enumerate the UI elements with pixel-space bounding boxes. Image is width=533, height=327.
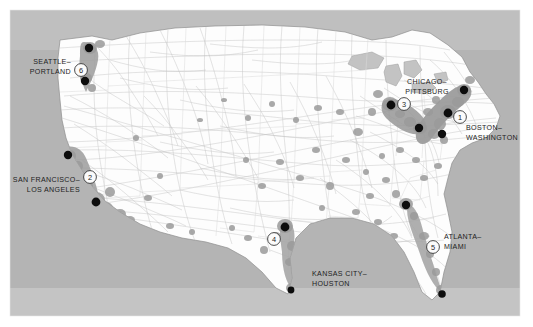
map-frame-content: 1 BOSTON– WASHINGTON 2 SAN FRANCISCO– LO… [10,10,520,316]
corridor-label-2-line1: SAN FRANCISCO– [13,176,80,184]
city-dot-washington [438,130,446,138]
megalopolis-corridor-map: 1 BOSTON– WASHINGTON 2 SAN FRANCISCO– LO… [0,0,533,327]
city-dot-new-york [444,109,453,118]
corridor-label-1-line2: WASHINGTON [466,134,518,142]
corridor-badge-1-number: 1 [458,113,462,122]
city-dot-boston [460,86,468,94]
city-dot-kansas-city [281,223,290,232]
city-dot-houston [288,287,295,294]
city-dot-miami [438,290,446,298]
corridor-badge-4-number: 4 [272,235,276,244]
corridor-label-6-line2: PORTLAND [30,68,71,76]
city-dot-pittsburg [415,124,423,132]
corridor-label-4-line2: HOUSTON [312,280,350,288]
corridor-badge-3-number: 3 [402,100,406,109]
corridor-label-4-line1: KANSAS CITY– [312,270,367,278]
corridor-label-5-line1: ATLANTA– [444,233,482,241]
corridor-badge-5-number: 5 [431,243,435,252]
corridor-label-3-line1: CHICAGO– [407,78,447,86]
map-canvas: 1 BOSTON– WASHINGTON 2 SAN FRANCISCO– LO… [0,0,533,327]
corridor-badge-2-number: 2 [88,173,92,182]
city-dot-atlanta [402,201,410,209]
corridor-label-1-line1: BOSTON– [466,124,502,132]
corridor-label-5-line2: MIAMI [444,243,466,251]
city-dot-seattle [85,44,93,52]
city-dot-san-francisco [64,151,72,159]
corridor-label-2-line2: LOS ANGELES [27,186,80,194]
corridor-label-6-line1: SEATTLE– [33,58,71,66]
city-dot-los-angeles [92,198,101,207]
city-dot-chicago [387,101,396,110]
corridor-label-3-line2: PITTSBURG [405,88,449,96]
city-dot-portland [81,77,89,85]
corridor-badge-6-number: 6 [79,66,83,75]
